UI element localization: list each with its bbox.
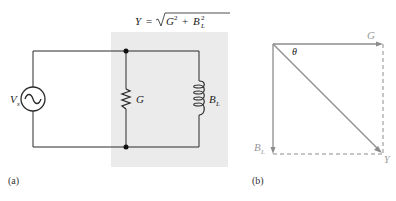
theta-label: θ [292,46,297,57]
caption-b: (b) [252,175,264,187]
resistor-label: G [136,93,144,105]
diagram-canvas: Y = G 2 + B 2 L V s G B L (a) G [0,0,396,201]
svg-text:2: 2 [174,14,178,22]
svg-text:Y: Y [135,15,143,27]
inductor-label-sub: L [215,100,220,108]
svg-text:2: 2 [201,14,205,22]
g-label: G [367,29,375,41]
bl-label-sub: L [260,148,265,156]
svg-text:G: G [166,15,174,27]
ac-source-icon [21,87,45,111]
svg-text:L: L [200,22,205,30]
inductor-label: B [209,93,216,105]
source-label-sub: s [17,100,20,108]
junction-bottom [124,145,129,150]
svg-text:=: = [146,15,152,27]
bl-label: B [254,141,261,153]
svg-text:+: + [182,15,188,27]
junction-top [124,49,129,54]
y-label: Y [384,154,391,165]
caption-a: (a) [8,175,19,187]
admittance-formula: Y = G 2 + B 2 L [135,13,230,30]
phasor-diagram: G B L Y θ [254,29,391,165]
y-phasor [273,44,379,150]
svg-text:B: B [193,15,200,27]
